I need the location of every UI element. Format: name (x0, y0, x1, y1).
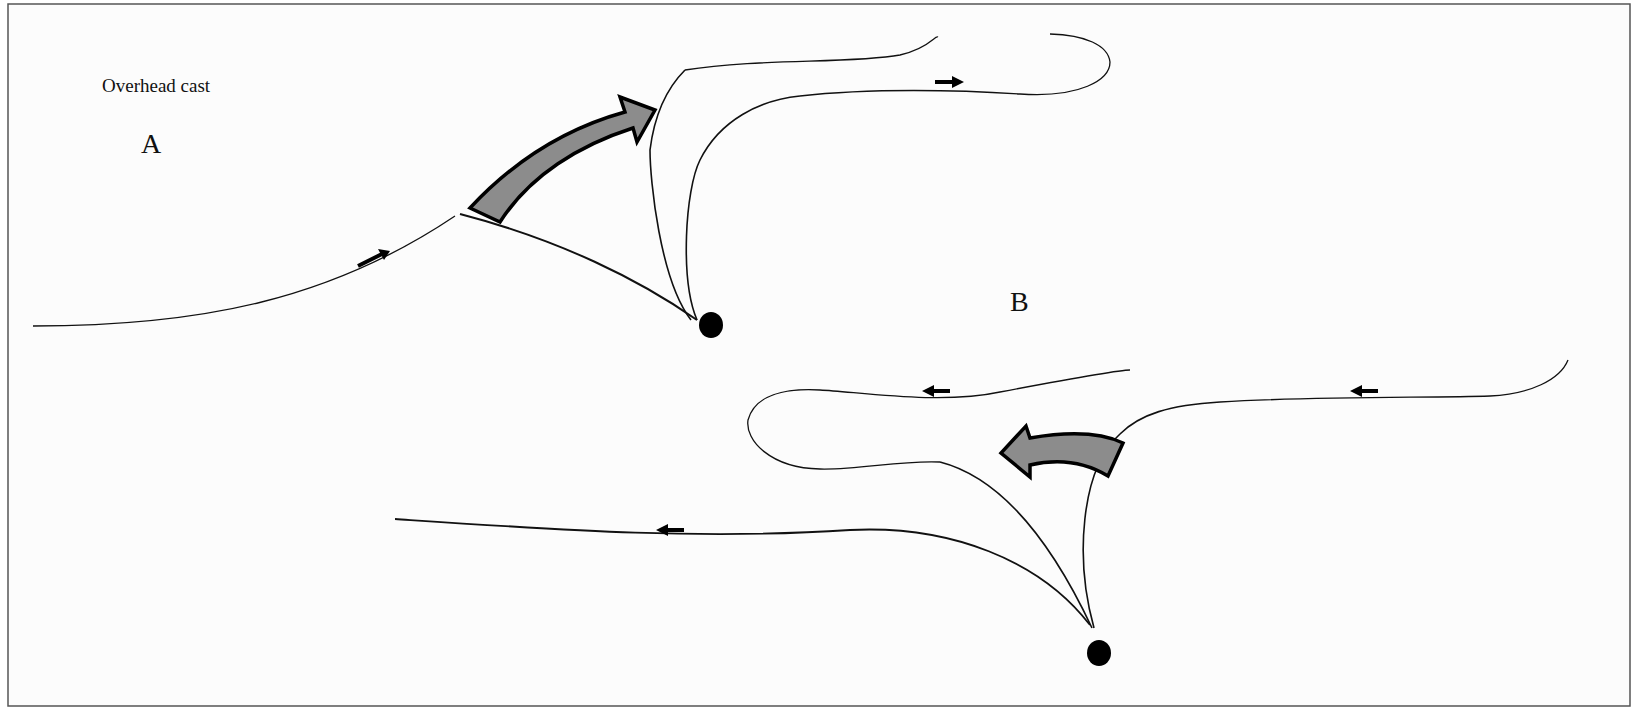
panel-a-label: A (141, 128, 162, 159)
diagram-frame: Overhead cast A B (7, 3, 1637, 710)
figure-title: Overhead cast (102, 75, 211, 96)
panel-b-label: B (1010, 286, 1029, 317)
rod-tip-a (699, 312, 723, 338)
diagram-border (8, 4, 1630, 706)
overhead-cast-diagram: Overhead cast A B (7, 3, 1637, 710)
rod-tip-b (1087, 640, 1111, 666)
